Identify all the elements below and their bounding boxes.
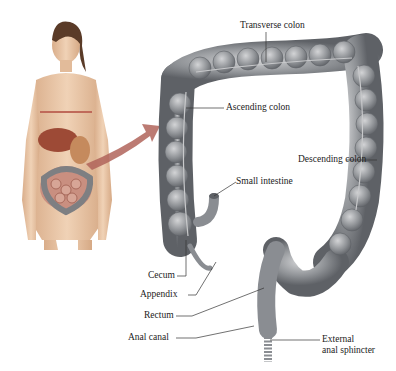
label-small-intestine: Small intestine — [236, 176, 293, 187]
diagram-canvas: Transverse colon Ascending colon Descend… — [0, 0, 396, 371]
label-rectum: Rectum — [144, 310, 174, 321]
label-transverse-colon: Transverse colon — [240, 20, 305, 31]
label-descending-colon: Descending colon — [298, 154, 366, 165]
label-external-anal-sphincter-line2: anal sphincter — [322, 345, 375, 356]
anatomy-illustration — [0, 0, 396, 371]
label-cecum: Cecum — [148, 270, 175, 281]
label-external-anal-sphincter-line1: External — [322, 334, 354, 345]
label-ascending-colon: Ascending colon — [226, 102, 290, 113]
human-figure — [22, 21, 112, 250]
label-appendix: Appendix — [140, 289, 177, 300]
label-anal-canal: Anal canal — [128, 332, 169, 343]
